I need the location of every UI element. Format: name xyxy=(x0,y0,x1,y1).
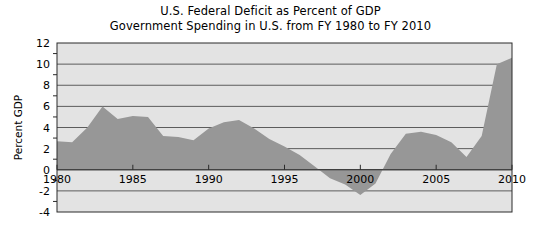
deficit-area-chart: -4-2024681012 19801985199019952000200520… xyxy=(0,0,541,247)
x-tick-label-2010: 2010 xyxy=(498,173,526,186)
x-tick-label-2000: 2000 xyxy=(346,173,374,186)
x-tick-label-2005: 2005 xyxy=(422,173,450,186)
y-axis-title: Percent GDP xyxy=(12,95,24,160)
x-tick-label-1985: 1985 xyxy=(119,173,147,186)
y-axis-tick-labels: -4-2024681012 xyxy=(36,37,50,219)
y-tick-label--4: -4 xyxy=(39,206,50,219)
y-tick-label--2: -2 xyxy=(39,185,50,198)
y-tick-label-8: 8 xyxy=(43,79,50,92)
y-tick-label-4: 4 xyxy=(43,122,50,135)
chart-page: U.S. Federal Deficit as Percent of GDP G… xyxy=(0,0,541,247)
x-tick-label-1995: 1995 xyxy=(271,173,299,186)
y-tick-label-12: 12 xyxy=(36,37,50,50)
y-tick-label-2: 2 xyxy=(43,143,50,156)
x-tick-label-1980: 1980 xyxy=(43,173,71,186)
x-tick-label-1990: 1990 xyxy=(195,173,223,186)
y-tick-label-10: 10 xyxy=(36,58,50,71)
y-tick-label-6: 6 xyxy=(43,100,50,113)
